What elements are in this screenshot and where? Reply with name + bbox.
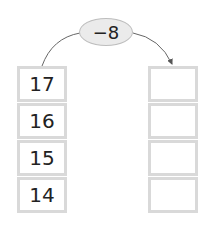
answer-box[interactable]	[148, 66, 198, 102]
answer-box[interactable]	[148, 140, 198, 176]
input-box: 16	[17, 103, 67, 139]
right-arrow	[133, 33, 172, 64]
input-box: 17	[17, 66, 67, 102]
input-column: 17 16 15 14	[17, 66, 67, 214]
answer-box[interactable]	[148, 103, 198, 139]
left-curve	[42, 33, 80, 66]
output-column	[148, 66, 198, 214]
operation-label: −8	[93, 22, 120, 43]
operation-oval: −8	[79, 18, 133, 46]
input-box: 14	[17, 177, 67, 213]
answer-box[interactable]	[148, 177, 198, 213]
input-box: 15	[17, 140, 67, 176]
